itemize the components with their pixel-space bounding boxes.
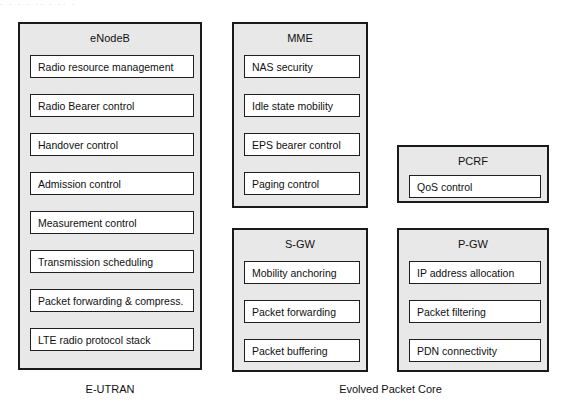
function-box: Packet forwarding <box>244 300 360 323</box>
function-box: NAS security <box>244 55 360 78</box>
function-box: Radio Bearer control <box>30 94 194 117</box>
function-label: Mobility anchoring <box>245 267 337 279</box>
function-label: Packet forwarding & compress. <box>31 295 183 307</box>
caption-e-utran: E-UTRAN <box>18 382 202 396</box>
node-mme: MME NAS security Idle state mobility EPS… <box>232 22 368 208</box>
function-box: IP address allocation <box>409 261 541 284</box>
function-label: QoS control <box>410 181 472 193</box>
node-pgw: P-GW IP address allocation Packet filter… <box>397 228 549 372</box>
function-label: PDN connectivity <box>410 345 497 357</box>
function-box: Transmission scheduling <box>30 250 194 273</box>
function-label: Packet filtering <box>410 306 486 318</box>
node-sgw: S-GW Mobility anchoring Packet forwardin… <box>232 228 368 372</box>
function-label: LTE radio protocol stack <box>31 334 150 346</box>
function-box: Mobility anchoring <box>244 261 360 284</box>
function-label: Paging control <box>245 178 319 190</box>
function-label: IP address allocation <box>410 267 514 279</box>
function-label: Measurement control <box>31 217 137 229</box>
function-box: Measurement control <box>30 211 194 234</box>
function-label: NAS security <box>245 61 313 73</box>
function-label: Radio Bearer control <box>31 100 134 112</box>
function-box: Admission control <box>30 172 194 195</box>
function-box: QoS control <box>409 175 541 198</box>
lte-architecture-diagram: · · · · ·· · ·· · eNodeB Radio resource … <box>0 0 565 405</box>
function-box: Idle state mobility <box>244 94 360 117</box>
function-label: Admission control <box>31 178 121 190</box>
function-label: Radio resource management <box>31 61 173 73</box>
node-enodeb: eNodeB Radio resource management Radio B… <box>18 22 202 370</box>
scan-artifact-strip: · · · · ·· · ·· · <box>0 0 565 7</box>
function-label: Transmission scheduling <box>31 256 153 268</box>
node-pgw-title: P-GW <box>399 238 547 251</box>
function-box: LTE radio protocol stack <box>30 328 194 351</box>
node-pcrf: PCRF QoS control <box>397 145 549 203</box>
function-label: Idle state mobility <box>245 100 333 112</box>
node-mme-title: MME <box>234 32 366 45</box>
function-box: PDN connectivity <box>409 339 541 362</box>
function-box: Radio resource management <box>30 55 194 78</box>
function-box: Packet filtering <box>409 300 541 323</box>
function-box: Packet forwarding & compress. <box>30 289 194 312</box>
function-label: Packet forwarding <box>245 306 336 318</box>
node-enodeb-title: eNodeB <box>20 32 200 45</box>
node-pcrf-title: PCRF <box>399 155 547 168</box>
function-label: EPS bearer control <box>245 139 341 151</box>
function-box: Handover control <box>30 133 194 156</box>
caption-evolved-packet-core: Evolved Packet Core <box>232 382 549 396</box>
function-label: Packet buffering <box>245 345 328 357</box>
function-label: Handover control <box>31 139 118 151</box>
node-sgw-title: S-GW <box>234 238 366 251</box>
function-box: EPS bearer control <box>244 133 360 156</box>
function-box: Paging control <box>244 172 360 195</box>
function-box: Packet buffering <box>244 339 360 362</box>
